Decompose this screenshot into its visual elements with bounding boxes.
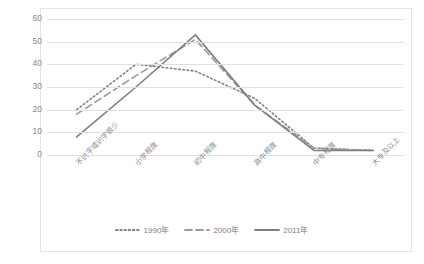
series-line-2000年	[77, 39, 374, 150]
legend-item-2011年[interactable]: 2011年	[255, 224, 308, 235]
y-axis-tick: 30	[12, 82, 42, 91]
legend-item-2000年[interactable]: 2000年	[185, 224, 239, 235]
y-axis-tick: 0	[12, 150, 42, 159]
gridline	[47, 87, 403, 88]
line-chart: 6050403020100 不识字或识字很少小学程度初中程度高中程度中专程度大专…	[0, 0, 424, 264]
gridline	[47, 42, 403, 43]
y-axis-tick-labels: 6050403020100	[10, 0, 42, 180]
legend-swatch-solid	[255, 226, 279, 234]
y-axis-tick: 50	[12, 37, 42, 46]
x-axis-category-labels: 不识字或识字很少小学程度初中程度高中程度中专程度大专及以上	[47, 158, 403, 218]
legend-swatch-dashed	[185, 226, 209, 234]
y-axis-tick: 20	[12, 105, 42, 114]
y-axis-tick: 40	[12, 59, 42, 68]
legend-label: 1990年	[144, 224, 170, 235]
gridline	[47, 110, 403, 111]
chart-legend: 1990年2000年2011年	[0, 224, 424, 235]
y-axis-tick: 10	[12, 127, 42, 136]
gridline	[47, 64, 403, 65]
gridline	[47, 19, 403, 20]
legend-label: 2000年	[213, 224, 239, 235]
legend-swatch-dotted	[116, 226, 140, 234]
y-axis-tick: 60	[12, 14, 42, 23]
gridline	[47, 155, 403, 156]
legend-item-1990年[interactable]: 1990年	[116, 224, 170, 235]
series-line-1990年	[77, 64, 374, 150]
legend-label: 2011年	[283, 224, 308, 235]
